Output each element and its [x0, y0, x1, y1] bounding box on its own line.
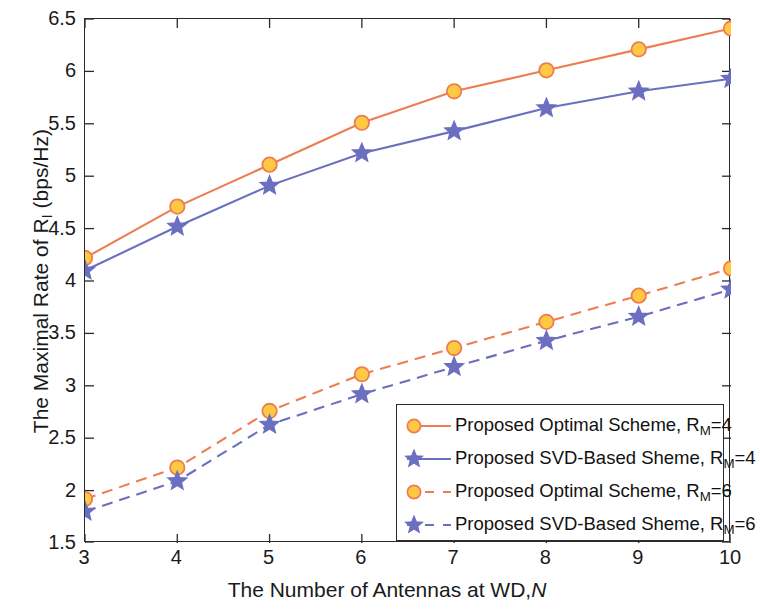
x-tick-label: 5 — [239, 546, 299, 569]
data-point — [539, 63, 553, 77]
data-point — [537, 331, 556, 349]
data-point — [168, 217, 187, 235]
x-tick-label: 3 — [54, 546, 114, 569]
data-point — [168, 471, 187, 489]
legend-label-0: Proposed Optimal Scheme, RM=4 — [455, 414, 732, 438]
data-point — [632, 288, 646, 302]
x-axis-label: The Number of Antennas at WD,N — [0, 578, 740, 602]
data-point — [537, 98, 556, 116]
data-point — [355, 116, 369, 130]
data-point — [724, 21, 731, 35]
legend-sample-1 — [403, 449, 455, 469]
data-point — [445, 357, 464, 375]
data-point — [724, 261, 731, 275]
data-point — [260, 415, 279, 433]
data-point — [629, 307, 648, 325]
data-point — [629, 81, 648, 99]
data-point — [355, 367, 369, 381]
legend-item-0[interactable]: Proposed Optimal Scheme, RM=4 — [397, 409, 723, 442]
legend-label-3: Proposed SVD-Based Sheme, RM=6 — [455, 513, 756, 537]
data-point — [721, 279, 731, 297]
y-axis-label: The Maximal Rate of RI (bps/Hz) — [29, 21, 55, 541]
legend-item-2[interactable]: Proposed Optimal Scheme, RM=6 — [397, 475, 723, 508]
x-axis-label-italic: N — [531, 578, 546, 601]
data-point — [352, 384, 371, 402]
x-tick-label: 10 — [700, 546, 760, 569]
y-axis-label-suffix: (bps/Hz) — [29, 129, 52, 214]
x-tick-label: 6 — [331, 546, 391, 569]
series-1 — [85, 69, 731, 279]
data-point — [539, 315, 553, 329]
data-point — [447, 341, 461, 355]
data-point — [260, 176, 279, 194]
y-axis-label-prefix: The Maximal Rate of R — [29, 218, 52, 433]
x-axis-label-main: The Number of Antennas at WD, — [194, 578, 531, 601]
data-point — [262, 157, 276, 171]
legend-sample-2 — [403, 482, 455, 502]
data-point — [447, 84, 461, 98]
legend-label-1: Proposed SVD-Based Sheme, RM=4 — [455, 447, 756, 471]
x-tick-label: 4 — [146, 546, 206, 569]
data-point — [445, 121, 464, 139]
legend-item-1[interactable]: Proposed SVD-Based Sheme, RM=4 — [397, 442, 723, 475]
data-point — [170, 199, 184, 213]
legend-sample-0 — [403, 416, 455, 436]
x-tick-label: 8 — [515, 546, 575, 569]
x-tick-label: 9 — [608, 546, 668, 569]
data-point — [352, 143, 371, 161]
legend-sample-3 — [403, 515, 455, 535]
x-tick-label: 7 — [423, 546, 483, 569]
y-axis-label-subscript: I — [38, 214, 55, 218]
legend-label-2: Proposed Optimal Scheme, RM=6 — [455, 480, 732, 504]
legend-box: Proposed Optimal Scheme, RM=4Proposed SV… — [396, 404, 724, 541]
data-point — [632, 42, 646, 56]
legend-item-3[interactable]: Proposed SVD-Based Sheme, RM=6 — [397, 508, 723, 541]
